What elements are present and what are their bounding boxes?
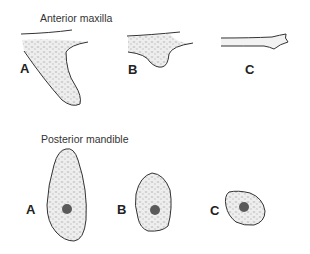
posterior-a-canal [62, 204, 72, 214]
anterior-c-ridge-shape [221, 34, 288, 49]
anterior-a-ridge-shape [21, 30, 88, 105]
posterior-b-bone-section [135, 173, 171, 231]
posterior-b-canal [150, 205, 160, 215]
ridge-cross-section-diagram [0, 0, 310, 254]
posterior-c-bone-section [225, 191, 265, 225]
posterior-a-bone-section [47, 149, 86, 241]
anterior-b-ridge-shape [127, 32, 193, 67]
posterior-c-canal [239, 202, 249, 212]
